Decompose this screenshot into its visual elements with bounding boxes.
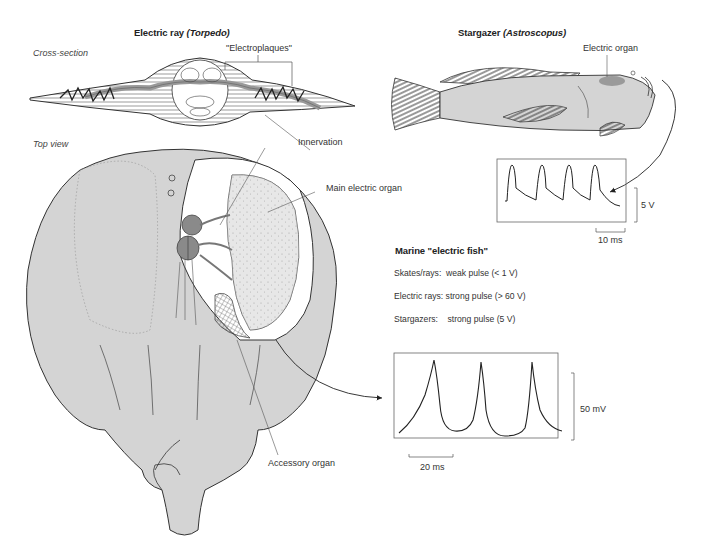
marine-fish-item-stargazers: Stargazers: strong pulse (5 V) [394, 314, 515, 324]
item-desc: weak pulse (< 1 V) [446, 268, 517, 278]
stargazer-genus: (Astroscopus) [503, 27, 566, 38]
stargazer-title-main: Stargazer [458, 27, 503, 38]
ray-cross-section [30, 55, 355, 150]
electric-ray-genus: (Torpedo) [187, 27, 230, 38]
stargazer-title: Stargazer (Astroscopus) [458, 27, 566, 38]
cross-section-label: Cross-section [33, 48, 88, 58]
electric-ray-title: Electric ray (Torpedo) [134, 27, 230, 38]
innervation-label: Innervation [298, 137, 343, 147]
marine-fish-heading: Marine "electric fish" [395, 245, 488, 256]
stargazer-time-scale: 10 ms [598, 235, 623, 245]
item-desc: strong pulse (> 60 V) [446, 291, 526, 301]
electric-ray-title-main: Electric ray [134, 27, 187, 38]
marine-fish-item-skates: Skates/rays: weak pulse (< 1 V) [394, 268, 518, 278]
ray-trace [394, 353, 574, 457]
stargazer-trace [497, 159, 637, 232]
ray-voltage-scale: 50 mV [580, 404, 606, 414]
ray-top-view [27, 148, 382, 535]
item-desc: strong pulse (5 V) [448, 314, 516, 324]
electric-organ-label: Electric organ [583, 43, 638, 53]
stargazer-fish [392, 55, 676, 192]
item-group: Skates/rays: [394, 268, 441, 278]
top-view-label: Top view [33, 139, 68, 149]
marine-fish-item-electric-rays: Electric rays: strong pulse (> 60 V) [394, 291, 526, 301]
diagram-graphics [0, 0, 705, 548]
ray-time-scale: 20 ms [420, 462, 445, 472]
item-group: Electric rays: [394, 291, 443, 301]
accessory-organ-label: Accessory organ [268, 458, 335, 468]
main-electric-organ-label: Main electric organ [326, 183, 402, 193]
electroplaques-label: "Electroplaques" [226, 43, 292, 53]
item-group: Stargazers: [394, 314, 438, 324]
stargazer-voltage-scale: 5 V [641, 200, 655, 210]
